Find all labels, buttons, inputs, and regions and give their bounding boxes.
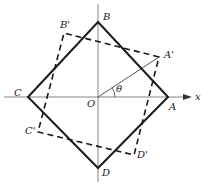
label-origin-O: O	[87, 98, 95, 109]
label-D-prime: D'	[136, 149, 148, 160]
label-A-prime: A'	[163, 49, 174, 60]
label-B: B	[102, 11, 110, 22]
dashed-square-ABCD-prime	[38, 33, 159, 155]
theta-arc	[112, 88, 115, 97]
label-C-prime: C'	[25, 125, 35, 136]
label-B-prime: B'	[59, 19, 70, 30]
rotated-square-diagram: B A C D A' B' C' D' O θ x	[0, 0, 208, 186]
label-theta: θ	[116, 83, 122, 94]
label-A: A	[168, 101, 176, 112]
diagram-canvas: B A C D A' B' C' D' O θ x	[0, 0, 208, 186]
label-D: D	[101, 167, 110, 178]
label-C: C	[14, 87, 22, 98]
label-x-axis: x	[195, 91, 201, 102]
x-axis-arrow-icon	[183, 94, 192, 100]
